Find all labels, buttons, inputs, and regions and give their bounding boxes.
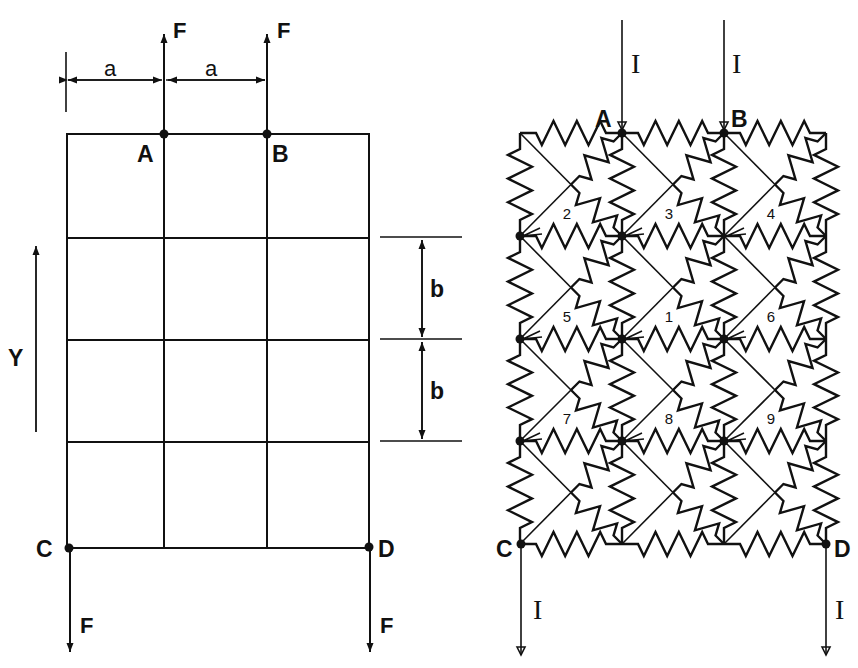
resistor-vertical: [508, 441, 532, 544]
dimension-b-label-1: b: [430, 278, 444, 301]
resistor-horizontal: [520, 532, 622, 556]
cell-number: 2: [563, 205, 571, 220]
terminal-node: [618, 129, 627, 138]
resistor-vertical: [712, 236, 736, 339]
resistor-vertical: [814, 236, 838, 339]
resistor-horizontal: [622, 121, 724, 145]
resistor-vertical: [508, 133, 532, 236]
node-label-b: B: [272, 143, 289, 166]
dimension-a-label-1: a: [104, 58, 116, 80]
resistor-vertical: [712, 339, 736, 441]
node-label-d-right: D: [834, 538, 851, 561]
cell-number: 7: [563, 411, 571, 426]
junction-node: [516, 437, 525, 446]
junction-node: [516, 335, 525, 344]
current-label-bottom-d: I: [835, 596, 844, 624]
current-label-top-b: I: [732, 50, 741, 78]
cell-number: 3: [665, 205, 673, 220]
resistor-vertical: [610, 339, 634, 441]
resistor-horizontal: [724, 429, 826, 453]
resistor-horizontal: [520, 327, 622, 351]
junction-node: [618, 335, 627, 344]
resistor-vertical: [814, 339, 838, 441]
resistor-horizontal: [724, 327, 826, 351]
junction-node: [516, 232, 525, 241]
resistor-horizontal: [622, 532, 724, 556]
cell-number: 1: [665, 308, 673, 323]
resistor-horizontal: [622, 429, 724, 453]
node-label-d: D: [378, 538, 395, 561]
current-label-top-a: I: [631, 50, 640, 78]
resistor-vertical: [814, 441, 838, 544]
resistor-vertical: [610, 236, 634, 339]
node-label-b-right: B: [731, 108, 748, 131]
figure-stage: F F a a A B b b Y C D F F I I A B C D I …: [0, 0, 858, 668]
resistor-vertical: [712, 133, 736, 236]
resistor-horizontal: [724, 224, 826, 248]
resistor-vertical: [610, 133, 634, 236]
resistor-vertical: [814, 133, 838, 236]
resistor-vertical: [712, 441, 736, 544]
resistor-horizontal: [622, 327, 724, 351]
junction-node: [618, 437, 627, 446]
resistor-vertical: [610, 441, 634, 544]
resistor-horizontal: [622, 224, 724, 248]
cell-number: 8: [665, 411, 673, 426]
junction-node: [618, 232, 627, 241]
force-label-bottom-c: F: [80, 615, 93, 637]
force-label-top-a: F: [173, 20, 186, 42]
junction-node: [720, 335, 729, 344]
node-label-a-right: A: [595, 108, 612, 131]
junction-node: [720, 437, 729, 446]
cell-number: 4: [767, 205, 775, 220]
cell-number: 5: [563, 308, 571, 323]
cell-number: 6: [767, 308, 775, 323]
terminal-node: [720, 129, 729, 138]
resistor-network-diagram: [0, 0, 858, 668]
force-label-top-b: F: [277, 20, 290, 42]
node-label-c: C: [36, 538, 53, 561]
axis-label-y: Y: [8, 347, 23, 370]
terminal-node: [822, 540, 831, 549]
dimension-a-label-2: a: [205, 58, 217, 80]
dimension-b-label-2: b: [430, 380, 444, 403]
force-label-bottom-d: F: [380, 615, 393, 637]
resistor-horizontal: [520, 429, 622, 453]
node-label-a: A: [137, 143, 154, 166]
terminal-node: [517, 540, 526, 549]
resistor-horizontal: [724, 532, 826, 556]
node-label-c-right: C: [496, 538, 513, 561]
resistor-vertical: [508, 236, 532, 339]
current-label-bottom-c: I: [533, 596, 542, 624]
resistor-horizontal: [520, 224, 622, 248]
resistor-vertical: [508, 339, 532, 441]
cell-number: 9: [767, 411, 775, 426]
